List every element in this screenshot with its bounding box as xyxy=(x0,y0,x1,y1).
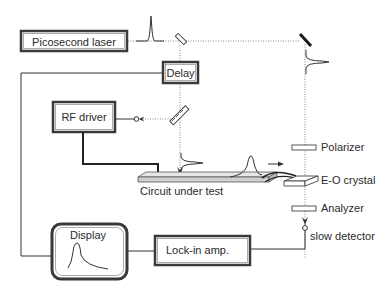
analyzer-icon xyxy=(292,206,316,211)
eo-sampling-diagram: Picosecond laser Delay RF driver Circuit… xyxy=(0,0,386,291)
display-label: Display xyxy=(70,229,107,241)
picosecond-laser-box: Picosecond laser xyxy=(21,31,127,51)
analyzer-label: Analyzer xyxy=(321,202,364,214)
polarizer-label: Polarizer xyxy=(321,141,365,153)
photodiode-icon xyxy=(134,117,139,122)
delay-label: Delay xyxy=(166,67,195,79)
eo-crystal-label: E-O crystal xyxy=(321,174,375,186)
detector-arrow-icon xyxy=(302,217,308,225)
delay-box: Delay xyxy=(163,62,198,83)
laser-label: Picosecond laser xyxy=(32,36,116,48)
slow-detector-icon xyxy=(303,226,308,231)
circuit-label: Circuit under test xyxy=(140,185,223,197)
pump-pulse-icon xyxy=(181,153,203,172)
rf-driver-label: RF driver xyxy=(61,111,107,123)
lockin-amp-box: Lock-in amp. xyxy=(155,236,250,265)
rf-driver-box: RF driver xyxy=(53,102,115,132)
detector-to-lockin-wire xyxy=(250,231,305,250)
rf-to-circuit-wire xyxy=(83,132,158,172)
propagation-arrow-icon xyxy=(278,162,284,167)
lockin-label: Lock-in amp. xyxy=(166,244,229,256)
beam-splitter-2-icon xyxy=(170,106,189,125)
display-box: Display xyxy=(52,224,127,279)
circuit-under-test: Circuit under test xyxy=(138,172,277,197)
probe-pulse-icon xyxy=(306,50,329,74)
eo-crystal-icon xyxy=(284,176,318,186)
polarizer-icon xyxy=(292,145,316,150)
beam-splitter-icon xyxy=(175,33,186,44)
laser-pulse-icon xyxy=(136,16,164,41)
detector-label: slow detector xyxy=(310,230,375,242)
